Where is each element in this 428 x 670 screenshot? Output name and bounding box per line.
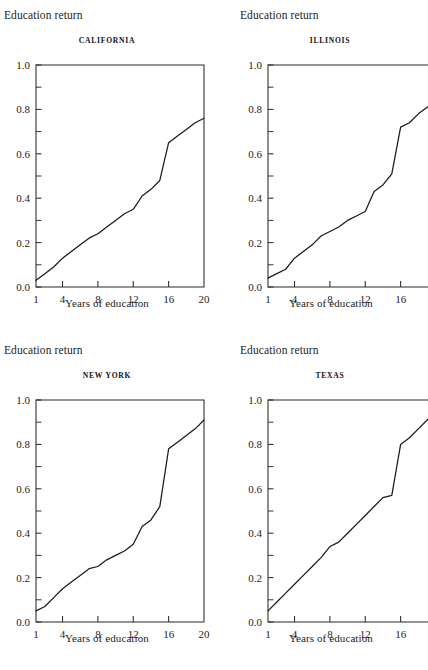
x-axis-title: Years of education — [214, 632, 428, 644]
x-axis-title: Years of education — [0, 632, 214, 644]
svg-text:0.6: 0.6 — [248, 148, 262, 160]
svg-text:0.0: 0.0 — [16, 281, 30, 293]
chart-panel-california: Education return CALIFORNIA 0.00.20.40.6… — [0, 0, 214, 335]
svg-text:0.2: 0.2 — [16, 237, 30, 249]
svg-text:1.0: 1.0 — [16, 394, 30, 406]
plot-area: 0.00.20.40.60.81.0148121620 — [214, 0, 428, 335]
chart-svg-texas: 0.00.20.40.60.81.0148121620 — [214, 335, 428, 670]
svg-text:0.6: 0.6 — [16, 483, 30, 495]
svg-text:0.4: 0.4 — [16, 527, 30, 539]
x-axis-title: Years of education — [214, 297, 428, 309]
svg-text:0.8: 0.8 — [248, 438, 262, 450]
svg-text:0.4: 0.4 — [248, 192, 262, 204]
svg-text:0.0: 0.0 — [16, 616, 30, 628]
chart-panel-newyork: Education return NEW YORK 0.00.20.40.60.… — [0, 335, 214, 670]
svg-text:0.2: 0.2 — [16, 572, 30, 584]
chart-svg-california: 0.00.20.40.60.81.0148121620 — [0, 0, 214, 335]
chart-panel-texas: Education return TEXAS 0.00.20.40.60.81.… — [214, 335, 428, 670]
svg-text:0.4: 0.4 — [248, 527, 262, 539]
plot-area: 0.00.20.40.60.81.0148121620 — [214, 335, 428, 670]
svg-text:1.0: 1.0 — [248, 394, 262, 406]
svg-text:0.6: 0.6 — [16, 148, 30, 160]
figure-grid: Education return CALIFORNIA 0.00.20.40.6… — [0, 0, 428, 670]
svg-text:1.0: 1.0 — [16, 59, 30, 71]
chart-svg-illinois: 0.00.20.40.60.81.0148121620 — [214, 0, 428, 335]
chart-panel-illinois: Education return ILLINOIS 0.00.20.40.60.… — [214, 0, 428, 335]
svg-text:0.2: 0.2 — [248, 572, 262, 584]
plot-area: 0.00.20.40.60.81.0148121620 — [0, 335, 214, 670]
x-axis-title: Years of education — [0, 297, 214, 309]
svg-text:0.8: 0.8 — [16, 103, 30, 115]
svg-text:0.6: 0.6 — [248, 483, 262, 495]
svg-text:1.0: 1.0 — [248, 59, 262, 71]
plot-area: 0.00.20.40.60.81.0148121620 — [0, 0, 214, 335]
svg-text:0.2: 0.2 — [248, 237, 262, 249]
chart-svg-newyork: 0.00.20.40.60.81.0148121620 — [0, 335, 214, 670]
svg-text:0.0: 0.0 — [248, 281, 262, 293]
svg-text:0.4: 0.4 — [16, 192, 30, 204]
svg-text:0.0: 0.0 — [248, 616, 262, 628]
svg-text:0.8: 0.8 — [248, 103, 262, 115]
svg-text:0.8: 0.8 — [16, 438, 30, 450]
